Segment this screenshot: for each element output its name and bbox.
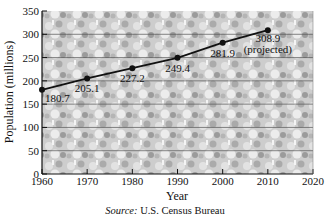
data-point: [129, 65, 135, 71]
x-tick-label: 1980: [121, 175, 144, 187]
y-axis-title: Population (millions): [2, 41, 16, 143]
x-tick-label: 2000: [212, 175, 235, 187]
data-point: [84, 75, 90, 81]
data-label: 281.9: [210, 47, 235, 59]
source-text: U.S. Census Bureau: [140, 205, 225, 216]
y-tick-label: 50: [28, 145, 40, 157]
data-point: [175, 55, 181, 61]
x-tick-label: 1990: [167, 175, 190, 187]
y-tick-label: 350: [23, 5, 40, 17]
y-tick-label: 150: [23, 98, 40, 110]
x-tick-label: 2020: [302, 175, 325, 187]
source-caption: Source: U.S. Census Bureau: [0, 205, 330, 216]
data-label: 249.4: [165, 62, 190, 74]
y-tick-label: 300: [23, 28, 40, 40]
data-label: 180.7: [45, 92, 70, 104]
data-point: [220, 40, 226, 46]
projected-annotation: (projected): [244, 43, 293, 56]
y-tick-label: 100: [23, 121, 40, 133]
x-tick-label: 1960: [31, 175, 54, 187]
population-chart: 050100150200250300350 196019701980199020…: [0, 0, 330, 223]
y-tick-label: 200: [23, 75, 40, 87]
x-tick-label: 1970: [76, 175, 99, 187]
x-tick-label: 2010: [257, 175, 280, 187]
data-label: 205.1: [75, 82, 100, 94]
y-tick-label: 250: [23, 52, 40, 64]
data-label: 227.2: [120, 72, 145, 84]
source-prefix: Source:: [105, 205, 137, 216]
x-axis-title: Year: [166, 189, 188, 203]
